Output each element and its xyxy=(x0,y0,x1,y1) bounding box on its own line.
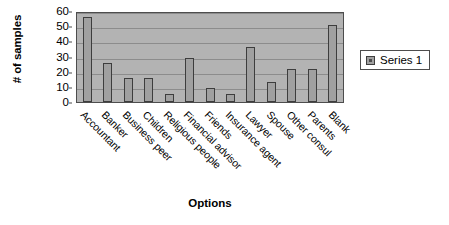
y-tick-label: 10 xyxy=(56,82,69,94)
bar-slot xyxy=(200,13,220,102)
series-1-swatch xyxy=(366,56,375,65)
bar xyxy=(165,94,174,102)
bars-layer xyxy=(77,13,343,102)
bar-slot xyxy=(179,13,199,102)
y-tick-label: 30 xyxy=(56,52,69,64)
bar xyxy=(124,78,133,102)
x-axis-tick-labels: AccountantBankerBusiness peerChildrenRel… xyxy=(76,104,344,184)
y-tick-mark xyxy=(69,87,72,88)
bar-slot xyxy=(118,13,138,102)
bar xyxy=(206,88,215,102)
y-tick-label: 60 xyxy=(56,6,69,18)
bar xyxy=(328,25,337,102)
y-axis-tick-labels: 0102030405060 xyxy=(46,12,72,103)
bar-slot xyxy=(302,13,322,102)
y-tick-mark xyxy=(69,12,72,13)
legend: Series 1 xyxy=(360,50,430,70)
x-axis-title: Options xyxy=(76,197,344,209)
y-tick-mark xyxy=(69,103,72,104)
y-tick-mark xyxy=(69,42,72,43)
bar-slot xyxy=(282,13,302,102)
legend-label-series-1: Series 1 xyxy=(380,54,422,66)
bar xyxy=(144,78,153,102)
bar-slot xyxy=(241,13,261,102)
bar xyxy=(83,17,92,102)
bar xyxy=(226,94,235,102)
y-axis-title: # of samples xyxy=(11,0,23,99)
bar-slot xyxy=(77,13,97,102)
bar xyxy=(287,69,296,102)
bar-slot xyxy=(220,13,240,102)
plot-area xyxy=(76,12,344,103)
y-tick-label: 20 xyxy=(56,67,69,79)
y-tick-mark xyxy=(69,57,72,58)
y-tick-label: 50 xyxy=(56,21,69,33)
bar-slot xyxy=(138,13,158,102)
bar-slot xyxy=(323,13,343,102)
bar xyxy=(246,47,255,102)
bar xyxy=(103,63,112,102)
bar xyxy=(185,58,194,102)
y-tick-mark xyxy=(69,27,72,28)
bar-slot xyxy=(261,13,281,102)
bar-chart: # of samples 0102030405060 AccountantBan… xyxy=(0,0,449,225)
y-tick-label: 40 xyxy=(56,37,69,49)
bar-slot xyxy=(97,13,117,102)
bar xyxy=(308,69,317,102)
bar xyxy=(267,82,276,102)
bar-slot xyxy=(159,13,179,102)
y-tick-mark xyxy=(69,72,72,73)
